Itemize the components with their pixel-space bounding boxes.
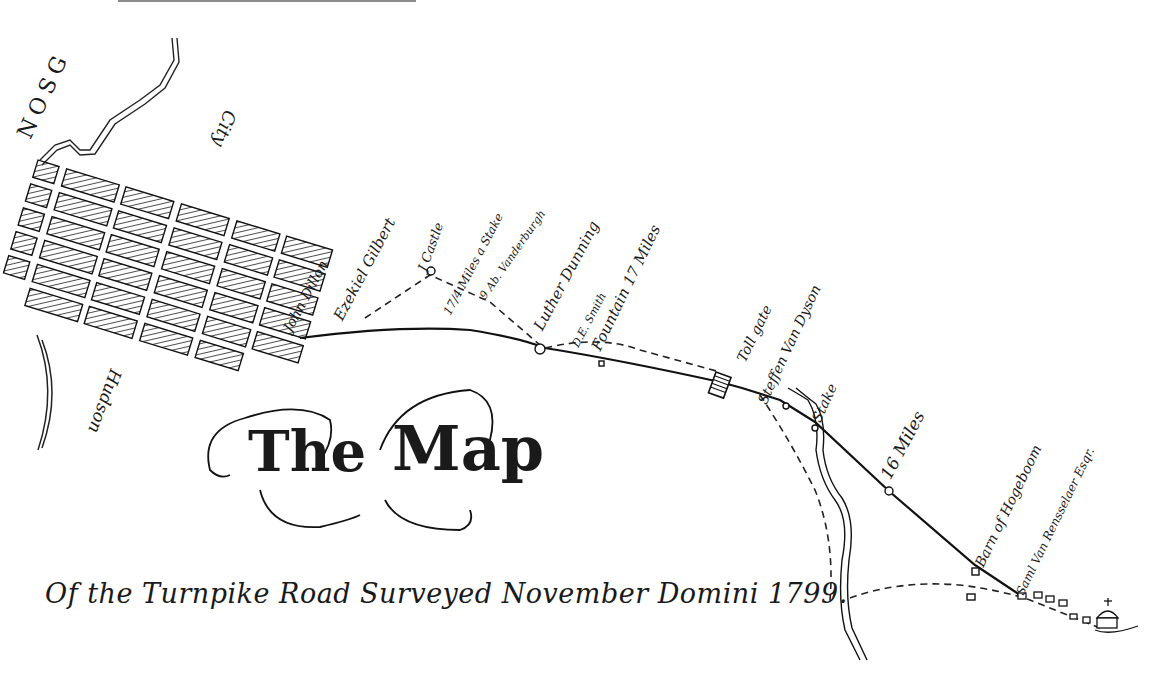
church-icon bbox=[1095, 598, 1138, 632]
map-title-word1: The bbox=[248, 418, 366, 484]
toll-gate-icon bbox=[708, 372, 731, 398]
city-grid bbox=[0, 160, 333, 387]
map-title-word2: Map bbox=[392, 412, 544, 485]
map-caption: Of the Turnpike Road Surveyed November D… bbox=[45, 578, 848, 609]
houses bbox=[1018, 592, 1090, 623]
stream bbox=[788, 388, 867, 660]
left-arc bbox=[37, 335, 52, 450]
